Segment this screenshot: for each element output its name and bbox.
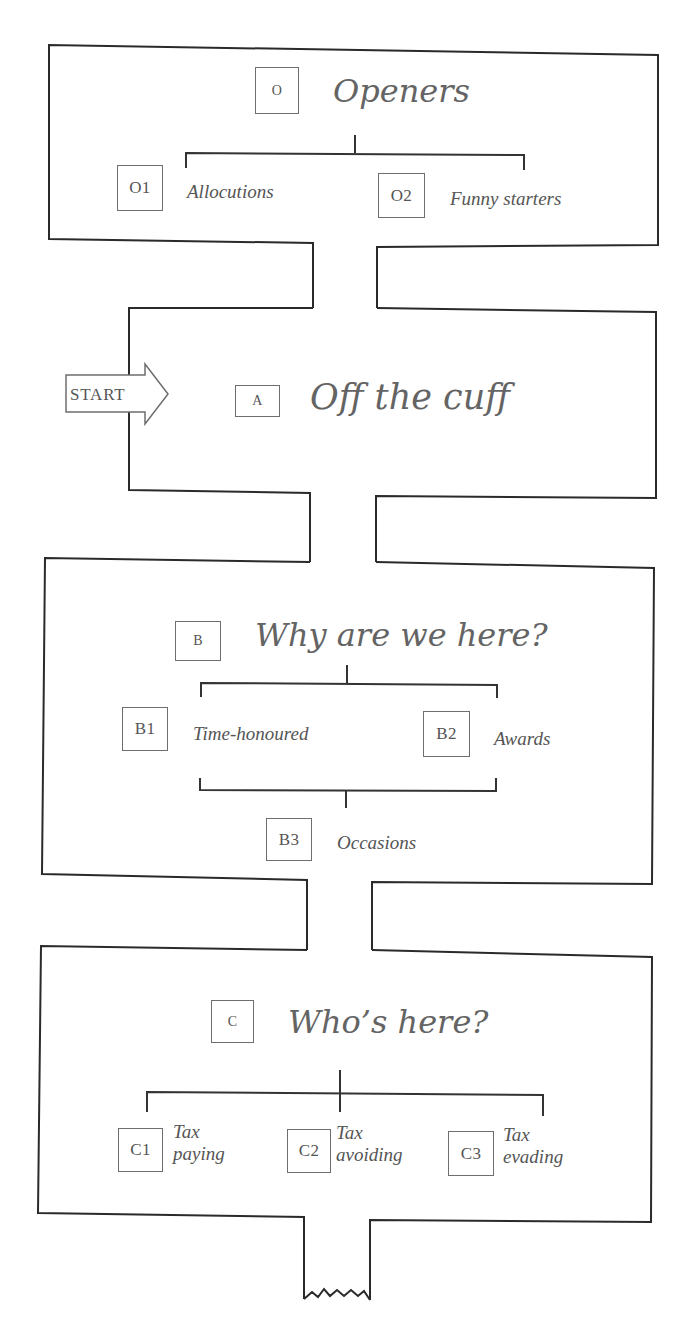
code-box-b2: B2 xyxy=(423,711,470,757)
label-tax-paying-line1: Tax xyxy=(173,1121,225,1143)
connector-b-branch xyxy=(201,683,497,698)
code-box-o2: O2 xyxy=(378,173,425,218)
label-allocutions: Allocutions xyxy=(187,182,274,201)
section-a-border-top-left xyxy=(129,308,313,375)
label-tax-avoiding: Tax avoiding xyxy=(336,1122,403,1166)
label-tax-avoiding-line2: avoiding xyxy=(336,1144,403,1166)
section-title-whos-here: Who’s here? xyxy=(288,1006,488,1038)
code-box-b: B xyxy=(175,621,221,661)
speech-flowchart: START O Openers O1 Allocutions O2 Funny … xyxy=(0,0,695,1339)
section-a-border-bottom-left xyxy=(129,412,310,562)
code-box-c: C xyxy=(211,1000,254,1043)
torn-edge-zigzag xyxy=(304,1289,370,1300)
label-tax-evading-line1: Tax xyxy=(503,1124,563,1146)
label-awards: Awards xyxy=(494,729,550,748)
section-title-off-the-cuff: Off the cuff xyxy=(310,380,510,415)
label-funny-starters: Funny starters xyxy=(450,189,561,208)
connector-b-lower-branch xyxy=(200,778,496,791)
code-box-c1: C1 xyxy=(118,1128,163,1172)
code-box-c2: C2 xyxy=(287,1129,331,1173)
connector-c-branch xyxy=(147,1092,543,1116)
section-title-openers: Openers xyxy=(333,75,470,107)
label-tax-avoiding-line1: Tax xyxy=(336,1122,403,1144)
label-tax-evading: Tax evading xyxy=(503,1124,563,1168)
label-occasions: Occasions xyxy=(337,833,416,852)
label-tax-paying: Tax paying xyxy=(173,1121,225,1165)
label-time-honoured: Time-honoured xyxy=(193,724,308,743)
label-tax-evading-line2: evading xyxy=(503,1146,563,1168)
connector-o-branch xyxy=(186,153,524,170)
code-box-o: O xyxy=(255,67,299,114)
start-label: START xyxy=(70,386,125,403)
code-box-b1: B1 xyxy=(122,707,168,751)
section-title-why-are-we-here: Why are we here? xyxy=(255,619,548,651)
label-tax-paying-line2: paying xyxy=(173,1143,225,1165)
code-box-o1: O1 xyxy=(117,165,163,211)
section-a-border-right xyxy=(376,308,656,562)
code-box-a: A xyxy=(235,385,280,417)
code-box-b3: B3 xyxy=(266,818,312,861)
code-box-c3: C3 xyxy=(448,1131,494,1176)
